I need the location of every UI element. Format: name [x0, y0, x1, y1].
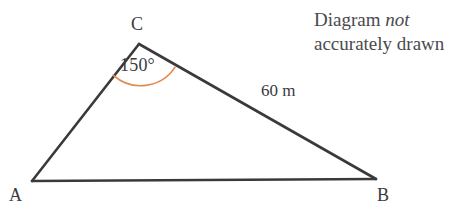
angle-label-c: 150°	[120, 56, 155, 74]
side-length-label-cb: 60 m	[261, 82, 295, 99]
note-line-2: accurately drawn	[314, 32, 444, 56]
side-cb	[139, 44, 376, 179]
note-emphasis-not: not	[385, 9, 409, 30]
side-ab	[32, 179, 376, 181]
vertex-label-c: C	[131, 15, 143, 33]
not-to-scale-note: Diagram not accurately drawn	[314, 8, 444, 57]
vertex-label-b: B	[377, 186, 389, 204]
note-line-1: Diagram not	[314, 8, 444, 32]
note-line-1-prefix: Diagram	[314, 9, 385, 30]
geometry-diagram: A B C 150° 60 m Diagram not accurately d…	[0, 0, 463, 213]
vertex-label-a: A	[9, 186, 22, 204]
